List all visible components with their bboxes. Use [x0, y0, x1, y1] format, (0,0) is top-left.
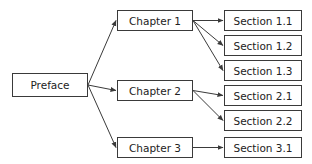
edge-arrow-preface-to-chapter3: [88, 85, 116, 148]
node-preface: Preface: [12, 73, 88, 97]
node-section-1-3: Section 1.3: [224, 60, 302, 81]
node-label: Preface: [30, 79, 69, 91]
node-section-1-2: Section 1.2: [224, 35, 302, 56]
edge-arrow-chapter1-to-section13: [193, 21, 223, 71]
node-label: Section 1.2: [233, 40, 292, 52]
edge-arrow-preface-to-chapter1: [88, 21, 116, 86]
node-chapter-2: Chapter 2: [117, 80, 193, 101]
node-section-3-1: Section 3.1: [224, 137, 302, 158]
node-label: Section 2.2: [233, 115, 292, 127]
node-chapter-1: Chapter 1: [117, 10, 193, 31]
node-label: Chapter 3: [129, 142, 181, 154]
node-label: Chapter 2: [129, 85, 181, 97]
edge-arrow-preface-to-chapter2: [88, 85, 116, 91]
edge-arrow-chapter1-to-section12: [193, 21, 223, 46]
node-label: Chapter 1: [129, 15, 181, 27]
node-section-1-1: Section 1.1: [224, 10, 302, 31]
node-section-2-1: Section 2.1: [224, 85, 302, 106]
node-label: Section 1.3: [233, 65, 292, 77]
node-chapter-3: Chapter 3: [117, 137, 193, 158]
node-label: Section 3.1: [233, 142, 292, 154]
book-structure-diagram: Preface Chapter 1 Chapter 2 Chapter 3 Se…: [0, 0, 312, 164]
node-label: Section 2.1: [233, 90, 292, 102]
node-label: Section 1.1: [233, 15, 292, 27]
node-section-2-2: Section 2.2: [224, 110, 302, 131]
